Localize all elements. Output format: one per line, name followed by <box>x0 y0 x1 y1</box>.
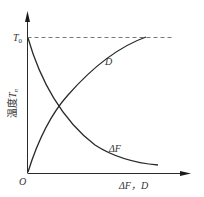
delta-f-curve <box>28 38 158 165</box>
temperature-curves-diagram: T0 O D ΔF ΔF，D 温度Tn <box>0 0 204 197</box>
y-axis-arrow-icon <box>25 11 30 22</box>
origin-label: O <box>19 176 26 187</box>
t0-label: T0 <box>13 32 23 45</box>
d-curve <box>28 37 146 172</box>
svg-text:温度Tn: 温度Tn <box>6 88 20 118</box>
x-axis-arrow-icon <box>180 171 191 176</box>
x-axis-label: ΔF，D <box>118 180 149 191</box>
y-axis-label: 温度Tn <box>6 88 20 118</box>
delta-f-curve-label: ΔF <box>108 143 122 154</box>
d-curve-label: D <box>104 56 113 67</box>
